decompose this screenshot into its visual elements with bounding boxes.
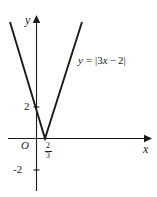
absolute-value-curve (10, 22, 82, 139)
equation-variable: x (103, 54, 108, 66)
y-axis-label: y (25, 14, 30, 26)
equation-close-bar: | (123, 54, 125, 66)
x-axis-label: x (143, 143, 148, 155)
x-intercept-fraction-label: 2 3 (41, 142, 55, 161)
equation-lhs: y (78, 54, 83, 66)
equation-equals: = (86, 54, 92, 66)
math-figure-absolute-value-graph: y x O 2 -2 2 3 y=|3x−2| (0, 0, 157, 197)
fraction-numerator: 2 (41, 142, 55, 150)
y-axis-arrowhead (33, 15, 40, 23)
graph-canvas (0, 0, 157, 197)
y-tick-label-2: 2 (24, 101, 30, 112)
fraction-denominator: 3 (41, 152, 55, 160)
origin-label: O (21, 140, 29, 151)
curve-equation-label: y=|3x−2| (78, 55, 126, 66)
y-tick-label-negative-2: -2 (13, 164, 22, 175)
equation-minus: − (110, 54, 116, 66)
